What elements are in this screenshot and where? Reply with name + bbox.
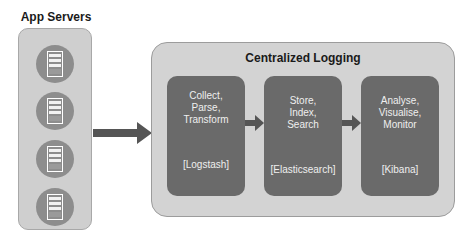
app-server-3 [36,140,74,178]
server-icon [47,51,63,77]
stage-line: Visualise, [361,107,439,119]
stage-line: Monitor [361,119,439,131]
stage-line: Search [264,119,342,131]
app-servers-group [18,28,92,230]
stage-tool: [Logstash] [167,159,245,171]
stage-line: Analyse, [361,95,439,107]
server-icon [47,194,63,220]
arrow-right-icon [245,115,265,131]
stage-line: Index, [264,107,342,119]
app-server-4 [36,188,74,226]
centralized-logging-title: Centralized Logging [152,51,454,65]
server-icon [47,146,63,172]
server-icon [47,98,63,124]
stage-line: Parse, [167,102,245,114]
app-server-1 [36,45,74,83]
stage-line: Collect, [167,90,245,102]
stage-elasticsearch: Store, Index, Search [Elasticsearch] [264,76,342,196]
stage-tool: [Kibana] [361,164,439,176]
centralized-logging-group: Centralized Logging Collect, Parse, Tran… [151,42,455,217]
stage-tool: [Elasticsearch] [264,164,342,176]
app-server-2 [36,92,74,130]
app-servers-title: App Servers [18,10,94,24]
stage-logstash: Collect, Parse, Transform [Logstash] [167,76,245,196]
stage-kibana: Analyse, Visualise, Monitor [Kibana] [361,76,439,196]
arrow-right-icon [93,121,153,145]
arrow-right-icon [342,115,362,131]
stage-line: Store, [264,95,342,107]
stage-line: Transform [167,114,245,126]
